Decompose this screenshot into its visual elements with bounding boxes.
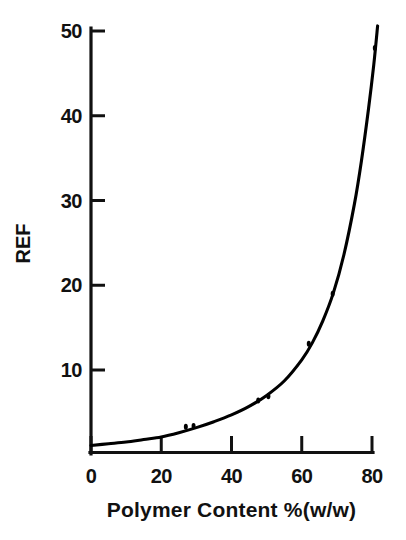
fitted-curve [91,26,378,446]
data-point [266,393,270,399]
axis-lines [90,28,373,454]
data-point [192,423,196,429]
x-tick-label: 20 [151,465,172,488]
data-point [307,341,311,347]
y-axis-ticks [91,31,105,370]
x-axis-title: Polymer Content %(w/w) [107,498,356,522]
data-point [184,424,188,430]
y-tick-label: 20 [38,274,82,297]
data-point [331,291,335,297]
chart-figure: REF Polymer Content %(w/w) 1020304050 02… [0,0,406,540]
x-tick-label: 80 [361,465,382,488]
data-point [373,45,377,51]
y-tick-label: 30 [38,189,82,212]
x-tick-label: 60 [291,465,312,488]
curve-path [91,26,378,446]
y-tick-label: 50 [38,20,82,43]
y-axis-title: REF [12,209,35,279]
x-axis-ticks [91,436,372,452]
data-point [256,398,260,404]
x-tick-label: 40 [221,465,242,488]
x-tick-label: 0 [86,465,97,488]
y-tick-label: 10 [38,359,82,382]
plot-area [0,0,406,540]
y-tick-label: 40 [38,104,82,127]
